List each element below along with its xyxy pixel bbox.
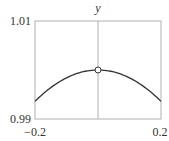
chart: y 1.01 0.99 −0.2 0.2	[0, 0, 169, 141]
x-tick-max: 0.2	[153, 125, 168, 139]
y-tick-min: 0.99	[10, 112, 31, 126]
x-tick-min: −0.2	[24, 125, 46, 139]
y-axis-label: y	[94, 1, 101, 15]
point-marker	[95, 67, 101, 73]
y-tick-max: 1.01	[10, 14, 31, 28]
